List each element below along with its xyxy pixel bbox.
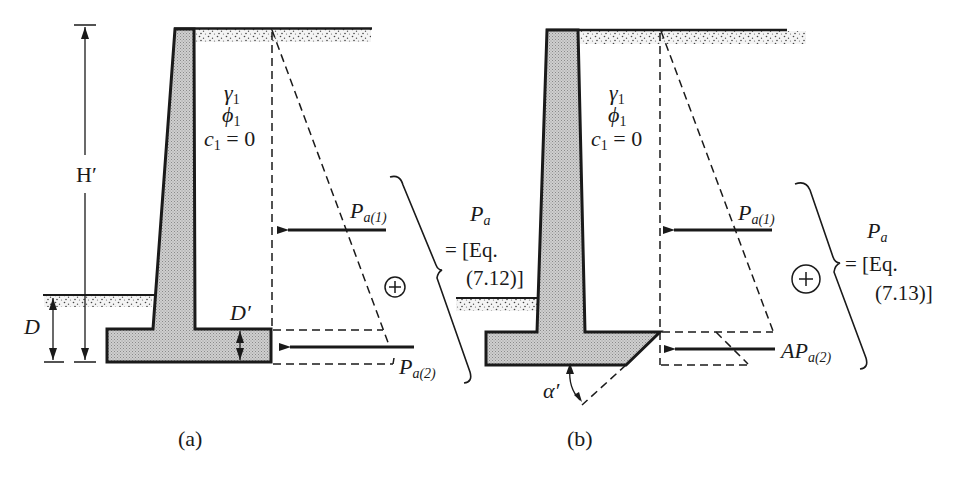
panel-caption-b: (b) [567, 428, 593, 450]
footing-thickness-label-a: D′ [230, 302, 251, 324]
force-label-pa1-a: Pa(1) [350, 200, 387, 225]
depth-label-a: D [24, 316, 40, 338]
resultant-equation-line1-a: = [Eq. [445, 240, 498, 261]
resultant-equation-line2-b: (7.13)] [875, 283, 933, 304]
angle-label-b: α′ [543, 380, 559, 402]
resultant-equation-line2-a: (7.12)] [466, 268, 524, 289]
force-label-apa2-b: APa(2) [781, 340, 831, 365]
cantilever-wall-b [486, 30, 660, 365]
backfill-soil-b [580, 31, 806, 44]
height-label-a: H′ [76, 164, 97, 186]
resultant-label-b: Pa [867, 220, 887, 245]
soil-cohesion-label-a: c1 = 0 [204, 128, 255, 153]
force-label-pa2-a: Pa(2) [399, 356, 436, 381]
soil-cohesion-label-b: c1 = 0 [591, 128, 642, 153]
panel-caption-a: (a) [178, 428, 202, 450]
front-soil-b [456, 299, 538, 311]
resultant-equation-line1-b: = [Eq. [845, 254, 898, 275]
retaining-wall-figure: γ1 ϕ1 c1 = 0 H′ D D′ Pa(1) Pa(2) Pa = [E… [0, 0, 959, 483]
backfill-soil-a [195, 29, 371, 42]
force-label-pa1-b: Pa(1) [738, 202, 775, 227]
front-soil-a [44, 296, 152, 307]
panel-a-drawing [43, 25, 471, 383]
resultant-label-a: Pa [470, 203, 490, 228]
